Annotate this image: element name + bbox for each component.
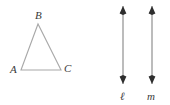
line-l-arrowhead-top <box>120 6 127 15</box>
geometry-figure: A B C ℓ m <box>0 0 170 105</box>
line-label-l: ℓ <box>120 90 125 102</box>
vertex-label-a: A <box>9 63 17 75</box>
line-m-arrowhead-top <box>149 6 156 15</box>
triangle-outline <box>21 24 61 70</box>
figure-canvas: A B C ℓ m <box>0 0 170 105</box>
line-m-arrowhead-bottom <box>149 75 156 84</box>
line-label-m: m <box>147 90 155 102</box>
line-m: m <box>147 6 155 102</box>
vertex-label-c: C <box>64 62 72 74</box>
vertex-label-b: B <box>35 9 42 21</box>
line-l-arrowhead-bottom <box>120 75 127 84</box>
triangle-ABC: A B C <box>9 9 72 75</box>
line-l: ℓ <box>120 6 127 102</box>
